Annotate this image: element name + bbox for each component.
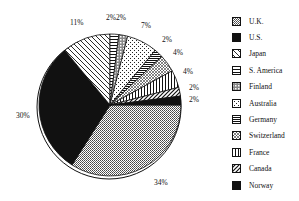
legend: U.K.U.S.JapanS. AmericaFinlandAustraliaG… [232, 13, 285, 193]
label-samerica: 2% [106, 13, 116, 22]
legend-item: U.K. [232, 13, 285, 29]
legend-label: Japan [249, 49, 266, 58]
legend-item: Germany [232, 111, 285, 127]
legend-label: S. America [249, 66, 282, 75]
label-switzerland: 4% [173, 48, 183, 57]
legend-label: Finland [249, 82, 272, 91]
label-australia: 7% [141, 21, 151, 30]
legend-label: France [249, 148, 269, 157]
pie-slices [39, 34, 181, 176]
legend-swatch [232, 17, 241, 26]
legend-item: Switzerland [232, 128, 285, 144]
legend-label: U.S. [249, 33, 262, 42]
legend-item: Norway [232, 177, 285, 193]
legend-swatch [232, 164, 241, 173]
legend-item: Canada [232, 161, 285, 177]
label-germany: 2% [162, 35, 172, 44]
label-japan: 11% [70, 18, 83, 27]
legend-swatch [232, 82, 241, 91]
legend-label: Australia [249, 99, 277, 108]
legend-item: Japan [232, 46, 285, 62]
label-us: 30% [16, 111, 30, 120]
label-finland: 2% [116, 13, 126, 22]
legend-swatch [232, 66, 241, 75]
legend-swatch [232, 181, 241, 190]
legend-item: France [232, 144, 285, 160]
legend-label: U.K. [249, 17, 264, 26]
legend-swatch [232, 148, 241, 157]
legend-swatch [232, 33, 241, 42]
legend-swatch [232, 99, 241, 108]
legend-label: Norway [249, 181, 273, 190]
legend-label: Germany [249, 115, 277, 124]
legend-item: U.S. [232, 29, 285, 45]
legend-swatch [232, 131, 241, 140]
label-uk: 34% [154, 178, 168, 187]
legend-label: Canada [249, 164, 272, 173]
label-norway: 2% [189, 95, 199, 104]
legend-item: Australia [232, 95, 285, 111]
label-canada: 2% [189, 83, 199, 92]
legend-item: Finland [232, 79, 285, 95]
legend-swatch [232, 49, 241, 58]
legend-item: S. America [232, 62, 285, 78]
label-france: 4% [183, 67, 193, 76]
legend-label: Switzerland [249, 131, 285, 140]
legend-swatch [232, 115, 241, 124]
